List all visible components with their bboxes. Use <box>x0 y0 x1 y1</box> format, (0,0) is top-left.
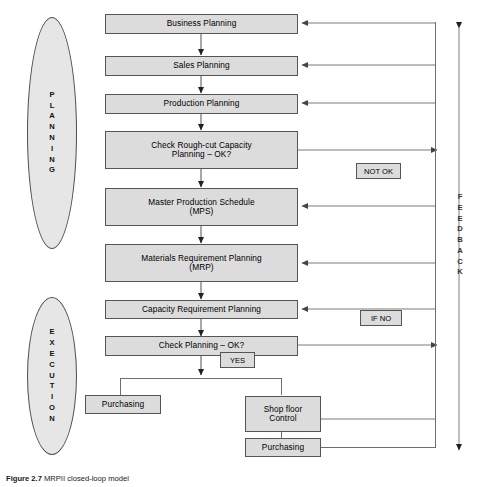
process-label: Check Planning – OK? <box>156 341 248 350</box>
phase-label-planning: P L A N N I N G <box>49 90 55 176</box>
decision-tag-yes: YES <box>220 352 255 368</box>
process-label: Production Planning <box>161 99 243 108</box>
decision-tag-label: YES <box>230 356 245 365</box>
process-box-check-rough-cut-capacity[interactable]: Check Rough-cut Capacity Planning – OK? <box>105 131 298 169</box>
execution-box-purchasing-bottom[interactable]: Purchasing <box>245 438 321 457</box>
execution-branch-left-drop <box>120 378 121 395</box>
decision-tag-label: IF NO <box>371 314 391 323</box>
execution-label: Shop floor Control <box>261 405 306 424</box>
process-box-materials-requirement-planning[interactable]: Materials Requirement Planning (MRP) <box>105 244 298 282</box>
execution-label: Purchasing <box>99 400 147 409</box>
execution-label: Purchasing <box>259 443 307 452</box>
execution-branch-right-drop <box>281 378 282 395</box>
phase-ellipse-planning: P L A N N I N G <box>27 17 77 249</box>
figure-canvas: P L A N N I N G E X E C U T I O N Busine… <box>0 0 483 487</box>
process-box-production-planning[interactable]: Production Planning <box>105 94 298 114</box>
process-box-sales-planning[interactable]: Sales Planning <box>105 56 298 76</box>
phase-label-execution: E X E C U T I O N <box>49 327 55 424</box>
process-label: Business Planning <box>164 19 240 28</box>
figure-caption-label: Figure 2.7 <box>6 474 42 483</box>
feedback-label: F E E D B A C K <box>454 192 466 278</box>
process-box-business-planning[interactable]: Business Planning <box>105 14 298 34</box>
execution-box-shop-floor-control[interactable]: Shop floor Control <box>245 396 321 432</box>
figure-caption: Figure 2.7 MRPII closed-loop model <box>6 474 129 483</box>
process-label: Sales Planning <box>170 61 233 70</box>
feedback-return-arrows <box>302 23 435 419</box>
process-box-check-planning[interactable]: Check Planning – OK? <box>105 336 298 356</box>
process-box-master-production-schedule[interactable]: Master Production Schedule (MPS) <box>105 188 298 226</box>
decision-tag-not-ok: NOT OK <box>356 163 401 179</box>
decision-tag-if-no: IF NO <box>360 310 402 326</box>
process-box-capacity-requirement-planning[interactable]: Capacity Requirement Planning <box>105 300 298 319</box>
feedback-bus-trunk <box>435 22 436 447</box>
process-label: Check Rough-cut Capacity Planning – OK? <box>148 141 255 160</box>
execution-branch-bar <box>120 378 282 379</box>
decision-tag-label: NOT OK <box>364 167 393 176</box>
process-label: Master Production Schedule (MPS) <box>145 198 257 217</box>
execution-box-purchasing-left[interactable]: Purchasing <box>85 395 161 414</box>
phase-ellipse-execution: E X E C U T I O N <box>27 297 77 455</box>
process-label: Capacity Requirement Planning <box>139 305 264 314</box>
figure-caption-text: MRPII closed-loop model <box>44 474 129 483</box>
process-label: Materials Requirement Planning (MRP) <box>138 254 265 273</box>
